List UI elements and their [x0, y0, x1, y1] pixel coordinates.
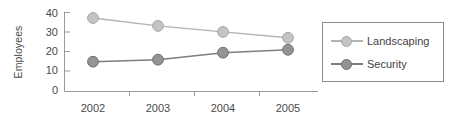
legend-item-landscaping: Landscaping [331, 33, 429, 49]
data-point-security-2002 [88, 56, 99, 67]
data-point-security-2003 [153, 54, 164, 65]
x-axis-ticks [130, 92, 260, 97]
chart-legend: Landscaping Security [322, 22, 444, 82]
line-chart-figure: Employees 40 30 20 10 0 [0, 0, 455, 127]
legend-label-security: Security [363, 58, 407, 70]
x-tick-label-2002: 2002 [70, 103, 116, 114]
y-axis-ticks [65, 13, 71, 72]
series-markers-landscaping [88, 13, 294, 44]
legend-label-landscaping: Landscaping [363, 35, 429, 47]
legend-item-security: Security [331, 56, 407, 72]
series-line-landscaping [93, 18, 288, 38]
x-tick-label-2003: 2003 [135, 103, 181, 114]
legend-marker-security-icon [331, 57, 363, 71]
data-point-landscaping-2005 [283, 32, 294, 43]
x-tick-label-2005: 2005 [265, 103, 311, 114]
data-point-landscaping-2003 [153, 21, 164, 32]
data-point-security-2005 [283, 44, 294, 55]
data-point-landscaping-2002 [88, 13, 99, 24]
x-tick-label-2004: 2004 [200, 103, 246, 114]
axis-lines [65, 12, 319, 92]
data-point-landscaping-2004 [218, 27, 229, 38]
legend-marker-landscaping-icon [331, 34, 363, 48]
series-line-security [93, 50, 288, 62]
data-point-security-2004 [218, 47, 229, 58]
